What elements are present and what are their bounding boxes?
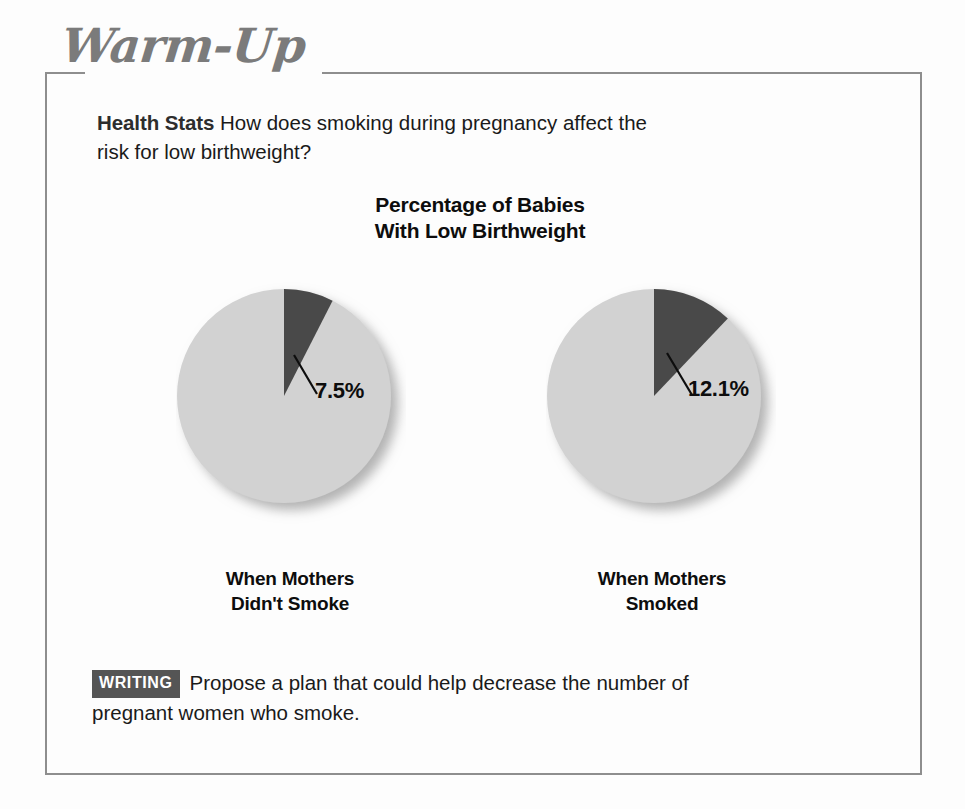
chart-title: Percentage of Babies With Low Birthweigh… bbox=[180, 192, 780, 245]
box-border-left bbox=[45, 72, 47, 775]
writing-badge: WRITING bbox=[92, 670, 180, 698]
chart-title-line1: Percentage of Babies bbox=[180, 192, 780, 218]
pie-right-caption: When Mothers Smoked bbox=[512, 567, 812, 616]
pie-left-percent-label: 7.5% bbox=[315, 378, 364, 404]
writing-prompt: WRITINGPropose a plan that could help de… bbox=[92, 668, 712, 727]
intro-paragraph: Health Stats How does smoking during pre… bbox=[97, 108, 657, 166]
pie-right-caption-line1: When Mothers bbox=[512, 567, 812, 592]
health-stats-label: Health Stats bbox=[97, 111, 214, 134]
box-border-top-right bbox=[322, 72, 922, 74]
warm-up-title: Warm-Up bbox=[60, 22, 308, 69]
warm-up-box: Warm-Up Health Stats How does smoking du… bbox=[0, 0, 965, 809]
pie-chart-didnt-smoke bbox=[176, 258, 406, 543]
pie-left-caption-line1: When Mothers bbox=[140, 567, 440, 592]
pie-left-caption: When Mothers Didn't Smoke bbox=[140, 567, 440, 616]
pie-right-percent-label: 12.1% bbox=[688, 376, 749, 402]
pie-left-svg bbox=[176, 258, 406, 543]
box-border-right bbox=[920, 72, 922, 775]
writing-prompt-text: Propose a plan that could help decrease … bbox=[92, 671, 689, 724]
box-border-bottom bbox=[45, 773, 922, 775]
chart-title-line2: With Low Birthweight bbox=[180, 218, 780, 244]
pie-right-caption-line2: Smoked bbox=[512, 592, 812, 617]
pie-left-caption-line2: Didn't Smoke bbox=[140, 592, 440, 617]
